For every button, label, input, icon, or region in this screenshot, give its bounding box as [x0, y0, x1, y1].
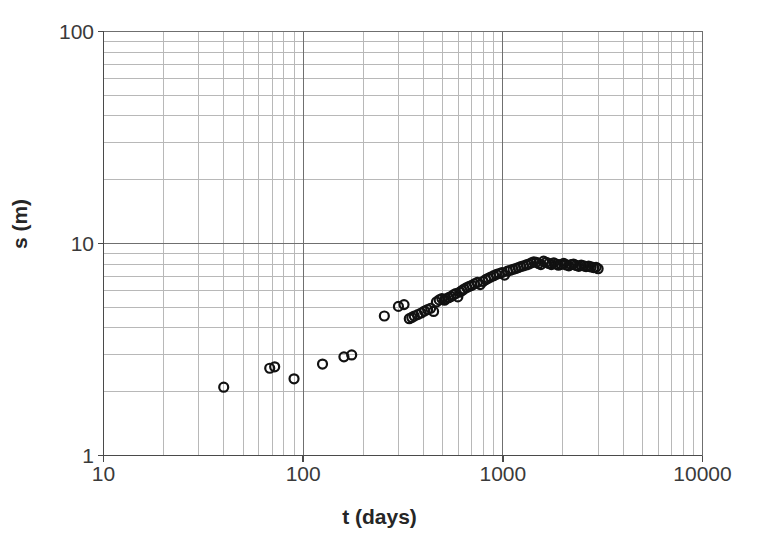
data-point	[318, 360, 327, 369]
chart-figure: 100 10 1 10 100 1000 10000 t (days) s (m…	[0, 0, 759, 546]
x-axis-tick-label-10: 10	[92, 462, 115, 486]
y-axis-tick-label-100: 100	[48, 20, 94, 44]
x-axis-title: t (days)	[0, 505, 759, 529]
x-axis-tick-label-1000: 1000	[479, 462, 526, 486]
x-axis-tick-label-10000: 10000	[673, 462, 731, 486]
x-axis-tick-label-100: 100	[286, 462, 321, 486]
y-axis-title: s (m)	[8, 174, 32, 274]
axis-frame	[98, 32, 703, 462]
data-point	[380, 312, 389, 321]
y-axis-tick-label-10: 10	[48, 232, 94, 256]
y-axis-tick-label-1: 1	[48, 444, 94, 468]
data-point-markers	[219, 257, 602, 392]
